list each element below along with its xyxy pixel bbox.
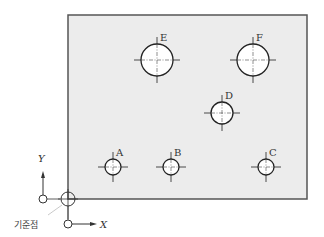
hole-label: F bbox=[256, 32, 263, 43]
drawing-canvas: ABCDEF Y X 기준점 bbox=[0, 0, 324, 237]
y-axis-origin-circle bbox=[39, 195, 47, 203]
x-axis-label: X bbox=[99, 219, 108, 230]
y-axis-label: Y bbox=[38, 153, 46, 164]
reference-point-label: 기준점 bbox=[14, 219, 38, 230]
hole-label: E bbox=[160, 32, 167, 43]
hole-label: C bbox=[269, 147, 277, 158]
hole-label: B bbox=[174, 147, 181, 158]
x-axis-origin-circle bbox=[64, 220, 72, 228]
hole-label: D bbox=[225, 90, 233, 101]
hole-label: A bbox=[115, 147, 124, 158]
